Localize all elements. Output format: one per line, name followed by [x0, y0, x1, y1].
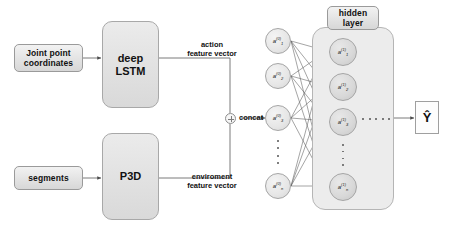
- input-joint-point-coordinates[interactable]: Joint point coordinates: [14, 44, 83, 72]
- neuron-hidden-n-label: a(1)n: [338, 184, 348, 190]
- output-y-hat: Ŷ: [415, 101, 439, 134]
- input-label-segments: segments: [28, 173, 68, 183]
- neuron-input-1[interactable]: a(0)1: [265, 28, 291, 54]
- neuron-input-n-label: a(0)n: [273, 183, 283, 189]
- layers-ellipsis: [362, 117, 390, 120]
- neuron-hidden-1-label: a(1)1: [338, 49, 348, 55]
- neuron-hidden-2[interactable]: a(1)2: [329, 73, 357, 101]
- neuron-hidden-n[interactable]: a(1)n: [329, 173, 357, 201]
- block-p3d[interactable]: P3D: [102, 133, 159, 220]
- label-action-feature-vector: action feature vector: [181, 40, 243, 58]
- enviroment-feature-line2: feature vector: [178, 181, 246, 190]
- concat-node-icon: [225, 113, 236, 124]
- neuron-hidden-3[interactable]: a(1)3: [329, 108, 357, 136]
- label-enviroment-feature-vector: enviroment feature vector: [178, 172, 246, 190]
- neuron-hidden-3-label: a(1)3: [338, 119, 348, 125]
- hidden-layer-line2: layer: [339, 18, 367, 28]
- deep-lstm-line2: LSTM: [116, 65, 146, 78]
- hidden-layer-tag: hidden layer: [327, 6, 379, 30]
- hidden-layer-ellipsis: [342, 144, 344, 166]
- neuron-input-n[interactable]: a(0)n: [265, 173, 291, 199]
- input-segments[interactable]: segments: [14, 166, 83, 190]
- diagram-canvas: Joint point coordinates segments deep LS…: [0, 0, 449, 235]
- p3d-label: P3D: [120, 170, 141, 183]
- neuron-hidden-2-label: a(1)2: [338, 84, 348, 90]
- neuron-input-3[interactable]: a(0)3: [265, 105, 291, 131]
- concat-label: concat: [239, 113, 263, 122]
- hidden-layer-line1: hidden: [339, 8, 367, 18]
- input-label-line1: Joint point: [24, 48, 73, 58]
- enviroment-feature-line1: enviroment: [178, 172, 246, 181]
- action-feature-line2: feature vector: [181, 49, 243, 58]
- deep-lstm-line1: deep: [116, 52, 146, 65]
- output-label: Ŷ: [423, 110, 432, 125]
- neuron-hidden-1[interactable]: a(1)1: [329, 38, 357, 66]
- block-deep-lstm[interactable]: deep LSTM: [102, 21, 159, 108]
- action-feature-line1: action: [181, 40, 243, 49]
- input-label-line2: coordinates: [24, 58, 73, 68]
- neuron-input-2-label: a(0)2: [273, 73, 283, 79]
- neuron-input-1-label: a(0)1: [273, 38, 283, 44]
- input-layer-ellipsis: [277, 140, 279, 164]
- neuron-input-3-label: a(0)3: [273, 115, 283, 121]
- neuron-input-2[interactable]: a(0)2: [265, 63, 291, 89]
